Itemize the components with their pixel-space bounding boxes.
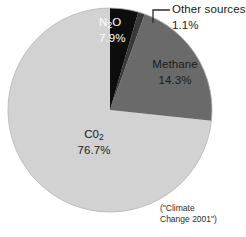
slice-label-co2-name: C02 — [52, 128, 136, 142]
source-citation: ("Climate Change 2001") — [160, 203, 217, 225]
slice-label-other-sources-name: Other sources — [172, 3, 246, 17]
slice-label-other-sources: Other sources 1.1% — [172, 3, 246, 32]
subscript-2: 2 — [99, 132, 104, 142]
slice-label-co2-value: 76.7% — [52, 144, 136, 158]
slice-label-n2o-name: N2O — [96, 16, 152, 30]
slice-label-n2o: N2O 7.9% — [96, 16, 152, 45]
slice-label-n2o-value: 7.9% — [96, 32, 152, 46]
subscript-2: 2 — [107, 20, 112, 30]
pie-chart-figure: N2O 7.9% Other sources 1.1% Methane 14.3… — [0, 0, 246, 237]
slice-label-co2: C02 76.7% — [52, 128, 136, 157]
slice-label-methane: Methane 14.3% — [136, 58, 214, 87]
slice-label-methane-value: 14.3% — [136, 74, 214, 88]
slice-label-other-sources-value: 1.1% — [172, 19, 246, 33]
slice-label-methane-name: Methane — [136, 58, 214, 72]
